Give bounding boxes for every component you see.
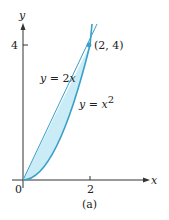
intersection-label: (2, 4) <box>94 39 124 52</box>
y-axis-arrow-icon <box>21 23 26 30</box>
intersection-point <box>87 43 92 48</box>
line-label: y = 2x <box>39 72 76 85</box>
figure-canvas: y 4 x 0 2 (2, 4) y = 2x y = x2 (a) <box>0 0 169 220</box>
figure-caption: (a) <box>82 198 97 211</box>
y-axis-label: y <box>18 9 26 22</box>
parabola-label: y = x2 <box>78 94 114 111</box>
origin-label: 0 <box>15 183 22 196</box>
x-axis-label: x <box>151 174 158 187</box>
x-tick-label-2: 2 <box>87 183 94 196</box>
y-tick-label-4: 4 <box>11 39 18 52</box>
x-axis-arrow-icon <box>143 178 150 183</box>
